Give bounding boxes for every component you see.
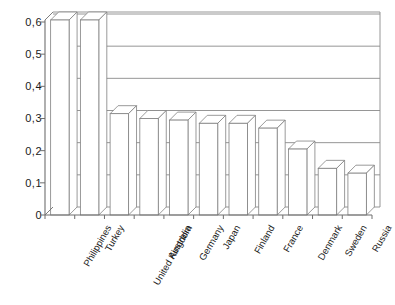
bar-australia [140,111,166,216]
bar-japan [199,115,225,215]
bar-turkey [80,12,106,215]
bar-finland [229,115,255,215]
x-tick-marks [45,215,372,219]
bar-sweden [318,160,344,215]
bar-group [51,12,375,215]
bar-philippines [51,12,77,215]
bar-germany [170,112,196,215]
bar-denmark [288,141,314,215]
plot-area [0,0,395,305]
bar-france [259,120,285,215]
bar-united-kingdom [110,106,136,215]
bar-russia [348,165,374,215]
bar-chart: 0,6 0,5 0,4 0,3 0,2 0,1 0 PhilippinesTur… [0,0,395,305]
